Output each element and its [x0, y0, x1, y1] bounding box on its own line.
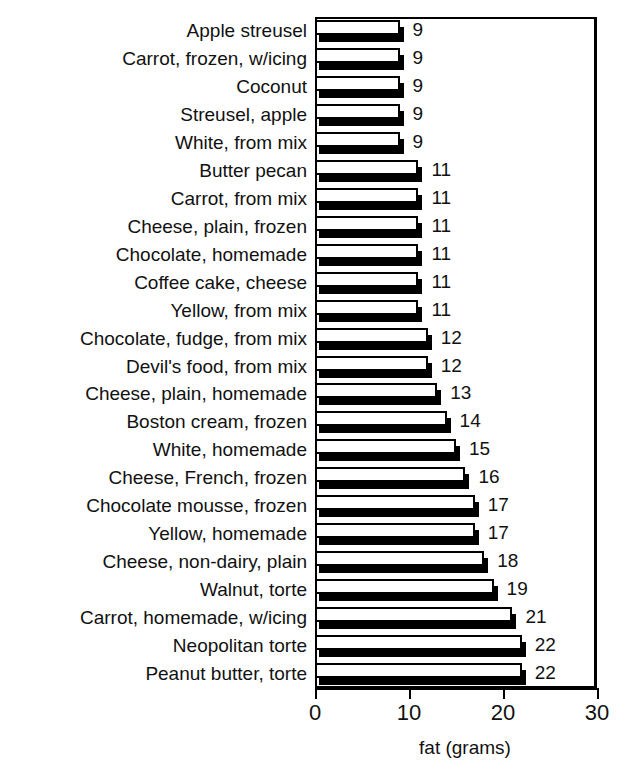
bar — [315, 325, 434, 353]
bar-value-label: 17 — [488, 520, 509, 548]
bar-value-label: 9 — [413, 101, 424, 129]
x-tick — [409, 688, 411, 699]
bar-face — [315, 244, 418, 259]
category-label: Chocolate, homemade — [116, 241, 307, 269]
bar — [315, 604, 518, 632]
bar-row: Boston cream, frozen14 — [0, 408, 630, 436]
bar-face — [315, 104, 400, 119]
category-label: White, from mix — [175, 129, 307, 157]
bar-value-label: 17 — [488, 492, 509, 520]
bar-face — [315, 272, 418, 287]
bar-row: Chocolate, homemade11 — [0, 241, 630, 269]
bar — [315, 157, 424, 185]
category-label: Peanut butter, torte — [145, 660, 307, 688]
bar-row: White, homemade15 — [0, 436, 630, 464]
bar-row: Devil's food, from mix12 — [0, 353, 630, 381]
bar-face — [315, 20, 400, 35]
bar-value-label: 16 — [478, 464, 499, 492]
category-label: Carrot, from mix — [171, 185, 307, 213]
category-label: Cheese, non-dairy, plain — [102, 548, 307, 576]
bar-face — [315, 579, 494, 594]
category-label: Apple streusel — [187, 17, 307, 45]
bar-row: Cheese, plain, frozen11 — [0, 213, 630, 241]
bar-value-label: 11 — [431, 213, 451, 241]
bar-row: Coffee cake, cheese11 — [0, 269, 630, 297]
category-label: Chocolate, fudge, from mix — [80, 325, 307, 353]
bar-value-label: 19 — [507, 576, 528, 604]
x-tick — [597, 688, 599, 699]
category-label: Cheese, French, frozen — [108, 464, 307, 492]
bar-row: Cheese, French, frozen16 — [0, 464, 630, 492]
bar — [315, 436, 462, 464]
bar-row: Yellow, homemade17 — [0, 520, 630, 548]
bar-face — [315, 607, 512, 622]
bar-row: Yellow, from mix11 — [0, 297, 630, 325]
bar-value-label: 12 — [441, 325, 462, 353]
bar-face — [315, 300, 418, 315]
bar — [315, 241, 424, 269]
bar-face — [315, 439, 456, 454]
bar-value-label: 9 — [413, 45, 424, 73]
x-tick — [315, 688, 317, 699]
bar-face — [315, 132, 400, 147]
bar — [315, 101, 406, 129]
bar-value-label: 12 — [441, 353, 462, 381]
bar-chart: Apple streusel9Carrot, frozen, w/icing9C… — [0, 0, 630, 776]
bar-face — [315, 523, 475, 538]
bar — [315, 380, 443, 408]
bar-face — [315, 328, 428, 343]
category-label: Cheese, plain, frozen — [127, 213, 307, 241]
bar-row: Carrot, from mix11 — [0, 185, 630, 213]
bar-face — [315, 160, 418, 175]
bar-row: Chocolate mousse, frozen17 — [0, 492, 630, 520]
bar — [315, 129, 406, 157]
bar — [315, 408, 453, 436]
bar — [315, 548, 490, 576]
bar-face — [315, 663, 522, 678]
category-label: Coconut — [236, 73, 307, 101]
category-label: Coffee cake, cheese — [134, 269, 307, 297]
bar-row: Chocolate, fudge, from mix12 — [0, 325, 630, 353]
bar-value-label: 18 — [497, 548, 518, 576]
bar-row: Streusel, apple9 — [0, 101, 630, 129]
category-label: Walnut, torte — [200, 576, 307, 604]
bar-row: Coconut9 — [0, 73, 630, 101]
bar — [315, 17, 406, 45]
bar-value-label: 9 — [413, 17, 424, 45]
bar-face — [315, 411, 447, 426]
category-label: Neopolitan torte — [173, 632, 307, 660]
bar-value-label: 15 — [469, 436, 490, 464]
bar — [315, 269, 424, 297]
bar-value-label: 11 — [431, 185, 451, 213]
bar-value-label: 11 — [431, 297, 451, 325]
bar-row: Carrot, homemade, w/icing21 — [0, 604, 630, 632]
x-tick-label: 0 — [285, 700, 345, 726]
bar-row: Apple streusel9 — [0, 17, 630, 45]
bar-value-label: 22 — [535, 632, 556, 660]
x-axis-line — [315, 688, 599, 690]
bar-row: Walnut, torte19 — [0, 576, 630, 604]
x-tick-label: 30 — [567, 700, 627, 726]
bar-row: White, from mix9 — [0, 129, 630, 157]
x-tick-label: 20 — [473, 700, 533, 726]
category-label: Cheese, plain, homemade — [85, 380, 307, 408]
category-label: Butter pecan — [199, 157, 307, 185]
category-label: Streusel, apple — [180, 101, 307, 129]
bar-row: Peanut butter, torte22 — [0, 660, 630, 688]
bar — [315, 464, 471, 492]
bar-row: Carrot, frozen, w/icing9 — [0, 45, 630, 73]
bar — [315, 660, 528, 688]
bar-row: Neopolitan torte22 — [0, 632, 630, 660]
bar-value-label: 11 — [431, 269, 451, 297]
category-label: Devil's food, from mix — [126, 353, 307, 381]
bar-face — [315, 48, 400, 63]
bar-face — [315, 188, 418, 203]
category-label: Boston cream, frozen — [126, 408, 307, 436]
category-label: Carrot, frozen, w/icing — [122, 45, 307, 73]
category-label: Carrot, homemade, w/icing — [80, 604, 307, 632]
bar — [315, 492, 481, 520]
bar — [315, 185, 424, 213]
bar — [315, 632, 528, 660]
bar — [315, 353, 434, 381]
x-tick-label: 10 — [379, 700, 439, 726]
